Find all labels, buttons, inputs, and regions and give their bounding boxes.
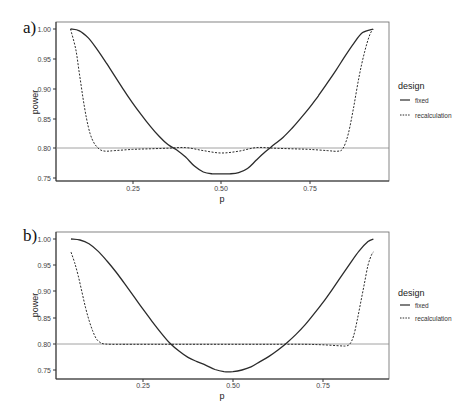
y-tick-label: 1.00 [37,26,51,33]
panel-b-series-fixed [71,239,373,372]
y-tick-label: 0.80 [37,341,51,348]
panel-b-label: b) [23,226,37,245]
panel-a-plot-border [56,22,389,181]
panel-a-legend: design fixed recalculation [398,81,452,119]
panel-b-y-ticks: 1.00 0.95 0.90 0.85 0.80 0.75 [37,236,56,374]
y-tick-label: 0.80 [37,145,51,152]
panel-b: b) 1.00 0.95 0.90 0.85 0.80 0.75 0.25 0.… [23,226,452,401]
x-tick-label: 0.50 [214,185,228,192]
panel-b-plot-border [56,232,389,379]
panel-b-x-ticks: 0.25 0.50 0.75 [136,379,330,389]
panel-a-series-recalculation [71,29,374,153]
y-tick-label: 0.75 [37,367,51,374]
panel-a-y-axis-title: power [30,90,40,115]
y-tick-label: 0.95 [37,56,51,63]
x-tick-label: 0.25 [126,185,140,192]
panel-b-x-axis-title: p [219,391,224,401]
panel-b-y-axis-title: power [30,293,40,318]
legend-recalculation-label: recalculation [415,315,452,322]
panel-a-series-fixed [71,29,374,174]
y-tick-label: 1.00 [37,236,51,243]
y-tick-label: 0.85 [37,116,51,123]
legend-fixed-label: fixed [415,302,429,309]
y-tick-label: 0.95 [37,262,51,269]
x-tick-label: 0.75 [316,382,330,389]
legend-fixed-label: fixed [415,97,429,104]
panel-a-y-ticks: 1.00 0.95 0.90 0.85 0.80 0.75 [37,26,56,182]
panel-a-x-axis-title: p [219,194,224,204]
x-tick-label: 0.75 [303,185,317,192]
panel-a-label: a) [23,18,36,37]
legend-recalculation-label: recalculation [415,112,452,119]
y-tick-label: 0.75 [37,175,51,182]
panel-a-x-ticks: 0.25 0.50 0.75 [126,181,317,192]
x-tick-label: 0.25 [136,382,150,389]
x-tick-label: 0.50 [226,382,240,389]
panel-b-series-recalculation [71,252,373,346]
panel-b-legend: design fixed recalculation [398,288,452,322]
figure: a) 1.00 0.95 0.90 0.85 0.80 0.75 0.25 0.… [0,0,470,408]
legend-title: design [398,81,425,91]
panel-a: a) 1.00 0.95 0.90 0.85 0.80 0.75 0.25 0.… [23,18,452,204]
legend-title: design [398,288,425,298]
